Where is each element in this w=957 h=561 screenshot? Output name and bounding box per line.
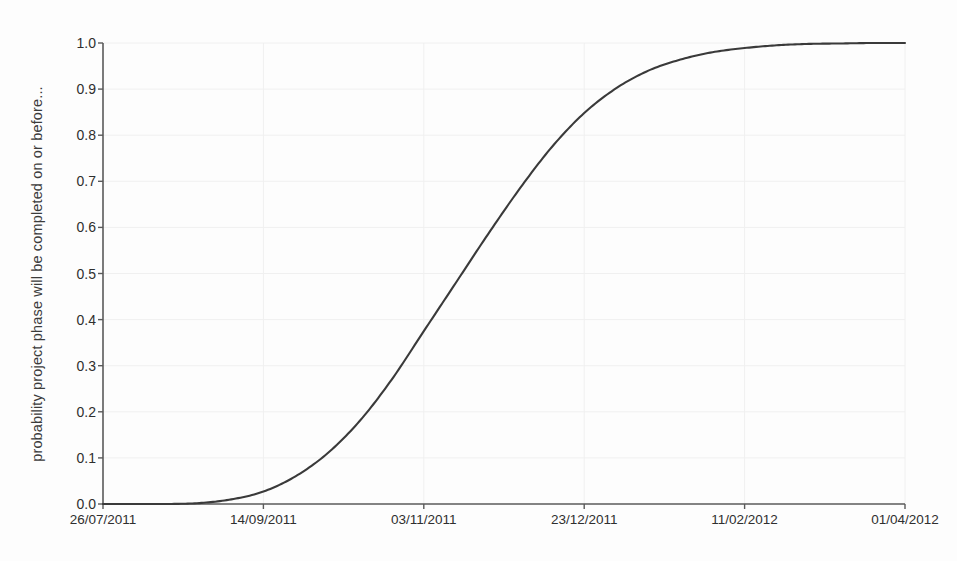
probability-s-curve-chart: probability project phase will be comple… [0, 0, 957, 561]
plot-area [0, 0, 957, 561]
gridlines [103, 43, 905, 504]
axis-tick-marks [98, 43, 905, 509]
